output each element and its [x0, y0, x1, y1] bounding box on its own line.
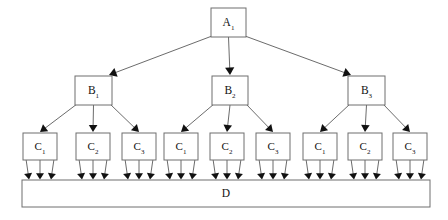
edge-B1-to-C2a-arrowhead — [89, 125, 98, 132]
edge-B3-to-C3c-line — [383, 104, 406, 128]
node-a1: A1 — [211, 8, 246, 37]
node-c1b: C1 — [164, 133, 198, 160]
node-c2c: C2 — [348, 133, 382, 160]
edge-B3-to-C2c-line — [365, 105, 366, 126]
edge-B2-to-C1b-arrowhead — [181, 124, 189, 132]
edge-C3c-to-D-2-arrowhead — [406, 173, 414, 179]
node-c2a: C2 — [76, 133, 110, 160]
edge-C1c-to-D-2-arrowhead — [316, 173, 324, 179]
node-c3b: C3 — [256, 133, 290, 160]
edge-C3b-to-D-3-line — [285, 159, 287, 175]
edge-C3b-to-D-2-arrowhead — [269, 173, 277, 179]
edge-B1-to-C1a-arrowhead — [40, 124, 48, 132]
node-c1c: C1 — [303, 133, 337, 160]
edge-C2b-to-D-2-arrowhead — [223, 173, 231, 179]
node-c1a: C1 — [23, 133, 57, 160]
node-b1: B1 — [75, 76, 112, 105]
edge-C2c-to-D-3-arrowhead — [373, 173, 381, 180]
edge-C2b-to-D-3-arrowhead — [235, 173, 243, 180]
edge-C3c-to-D-1-line — [396, 159, 398, 175]
edge-C2a-to-D-2-arrowhead — [89, 173, 97, 179]
edge-B2-to-C3b-line — [246, 104, 269, 128]
edge-a1-to-B3-line — [245, 36, 345, 73]
edge-C1c-to-D-1-arrowhead — [304, 173, 312, 180]
edge-C2a-to-D-1-arrowhead — [77, 173, 85, 180]
edge-B2-to-C1b-line — [185, 104, 214, 128]
edge-C3b-to-D-1-arrowhead — [257, 173, 265, 180]
edge-C1a-to-D-1-arrowhead — [24, 173, 32, 180]
edge-a1-to-B2-line — [229, 37, 230, 69]
edge-C1c-to-D-3-line — [332, 159, 334, 175]
edge-C2c-to-D-3-line — [377, 159, 379, 175]
edge-C1b-to-D-3-line — [193, 159, 195, 175]
edge-C1b-to-D-1-arrowhead — [165, 173, 173, 180]
edge-C2b-to-D-1-line — [213, 159, 215, 175]
edge-C2a-to-D-3-arrowhead — [101, 173, 109, 180]
node-b2: B2 — [212, 76, 248, 105]
edge-B1-to-C1a-line — [45, 104, 77, 129]
edge-C2c-to-D-1-line — [351, 159, 353, 175]
diagram-canvas: A1B1B2B3C1C2C3C1C2C3C1C2C3D — [0, 0, 448, 220]
node-c3a: C3 — [122, 133, 156, 160]
edge-a1-to-B2-arrowhead — [225, 67, 234, 75]
edge-C3c-to-D-3-arrowhead — [418, 173, 426, 180]
edge-C1a-to-D-1-line — [26, 159, 28, 175]
edge-C1a-to-D-3-line — [52, 159, 54, 175]
edge-C2c-to-D-2-arrowhead — [361, 173, 369, 179]
edge-C3c-to-D-1-arrowhead — [394, 173, 402, 180]
edge-C3a-to-D-3-line — [151, 159, 153, 175]
edge-B2-to-C2b-arrowhead — [223, 125, 232, 132]
edge-C3a-to-D-3-arrowhead — [147, 173, 155, 180]
edge-C1b-to-D-1-line — [167, 159, 169, 175]
hierarchy-diagram: A1B1B2B3C1C2C3C1C2C3C1C2C3D — [0, 0, 448, 220]
node-d: D — [22, 180, 430, 207]
edge-B2-to-C2b-line — [228, 105, 230, 126]
edge-C1b-to-D-2-arrowhead — [177, 173, 185, 179]
edge-C3b-to-D-3-arrowhead — [281, 173, 289, 180]
edge-C1c-to-D-3-arrowhead — [328, 173, 336, 180]
edge-C2b-to-D-3-line — [239, 159, 241, 175]
edge-C1b-to-D-3-arrowhead — [189, 173, 197, 180]
node-c3c: C3 — [393, 133, 427, 160]
node-c2b: C2 — [210, 133, 244, 160]
edge-C2b-to-D-1-arrowhead — [211, 173, 219, 180]
node-b3: B3 — [348, 76, 385, 105]
edge-C3a-to-D-1-arrowhead — [123, 173, 131, 180]
edge-B1-to-C3a-line — [110, 104, 135, 128]
edge-B3-to-C2c-arrowhead — [361, 125, 370, 132]
node-d-label: D — [222, 187, 230, 199]
edge-C2a-to-D-3-line — [105, 159, 107, 175]
edge-B3-to-C1c-line — [324, 104, 350, 128]
edge-C1a-to-D-3-arrowhead — [48, 173, 56, 180]
edge-C2a-to-D-1-line — [79, 159, 81, 175]
edge-C1a-to-D-2-arrowhead — [36, 173, 44, 179]
edge-C3a-to-D-2-arrowhead — [135, 173, 143, 179]
edge-C3a-to-D-1-line — [125, 159, 127, 175]
edge-C3c-to-D-3-line — [422, 159, 424, 175]
edge-C3b-to-D-1-line — [259, 159, 261, 175]
edge-C2c-to-D-1-arrowhead — [349, 173, 357, 180]
edge-C1c-to-D-1-line — [306, 159, 308, 175]
edge-a1-to-B1-line — [115, 36, 212, 73]
